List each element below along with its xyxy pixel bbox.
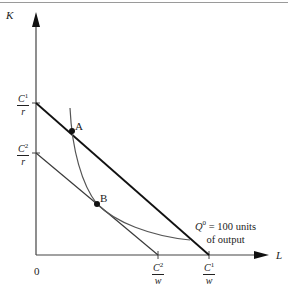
- isoquant-text-line2: of output: [195, 233, 256, 246]
- numerator-base: C: [204, 262, 211, 273]
- numerator-superscript: 1: [25, 92, 29, 100]
- numerator-base: C: [18, 93, 25, 104]
- denominator: r: [21, 156, 25, 167]
- y-tick-label-c2-r: C2 r: [17, 144, 29, 167]
- point-a-label: A: [75, 121, 83, 132]
- y-tick-label-c1-r: C1 r: [17, 94, 29, 117]
- isoquant-label: Q0 = 100 units of output: [195, 220, 256, 246]
- denominator: r: [21, 106, 25, 117]
- numerator-base: C: [18, 143, 25, 154]
- denominator: w: [206, 275, 213, 286]
- isoquant-text-line1: = 100 units: [206, 221, 256, 232]
- numerator-superscript: 2: [160, 261, 164, 269]
- origin-label: 0: [34, 266, 40, 277]
- denominator: w: [155, 275, 162, 286]
- x-tick-label-c1-w: C1 w: [203, 263, 215, 286]
- x-axis-label: L: [276, 250, 282, 261]
- numerator-superscript: 1: [211, 261, 215, 269]
- point-b-label: B: [100, 193, 107, 204]
- isoquant-curve: [70, 108, 190, 240]
- isocost-isoquant-diagram: [0, 0, 288, 292]
- isoquant-label-line1: Q0 = 100 units: [195, 220, 256, 233]
- numerator-superscript: 2: [25, 142, 29, 150]
- y-axis-arrow-icon: [32, 12, 40, 27]
- numerator-base: C: [153, 262, 160, 273]
- x-tick-label-c2-w: C2 w: [152, 263, 164, 286]
- isocost-line-c1: [36, 103, 209, 255]
- x-axis-arrow-icon: [254, 251, 269, 259]
- isoquant-q-symbol: Q: [195, 221, 203, 232]
- y-axis-label: K: [6, 10, 13, 21]
- isoquant-q-superscript: 0: [203, 219, 207, 227]
